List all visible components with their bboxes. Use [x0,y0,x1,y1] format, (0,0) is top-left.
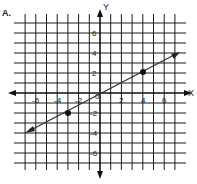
y-axis-bottom-arrow-icon [97,171,103,179]
x-tick-6: 6 [162,96,167,105]
y-tick-2: 2 [92,69,97,78]
y-tick-neg6: -6 [90,149,98,158]
x-tick-neg6: -6 [32,96,40,105]
y-tick-neg2: -2 [90,109,98,118]
y-tick-neg4: -4 [90,129,98,138]
x-tick-neg4: -4 [54,96,62,105]
data-point [140,69,146,75]
x-tick-4: 4 [141,96,146,105]
line-left-arrow-icon [25,126,35,133]
coordinate-plane: Y X -6 -4 -2 0 2 4 6 6 4 2 -2 -4 -6 [0,0,197,184]
x-tick-2: 2 [119,96,124,105]
data-point [65,110,71,116]
y-axis-label: Y [103,2,109,12]
x-axis-left-arrow-icon [8,90,16,96]
y-tick-6: 6 [92,29,97,38]
y-tick-4: 4 [92,49,97,58]
x-axis-label: X [188,88,194,98]
